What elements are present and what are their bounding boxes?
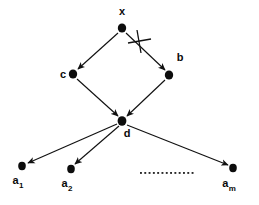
ellipsis-group [140, 172, 194, 174]
ellipsis-dot [170, 172, 172, 174]
node-dot-am[interactable] [229, 164, 237, 172]
ellipsis-dot [183, 172, 185, 174]
ellipsis-dot [166, 172, 168, 174]
edge-c-to-d [77, 79, 118, 116]
ellipsis-dot [149, 172, 151, 174]
node-dot-a1[interactable] [18, 162, 26, 170]
ellipsis-dot [153, 172, 155, 174]
ellipsis-dot [144, 172, 146, 174]
node-label-c: c [60, 68, 66, 80]
edges-group [28, 33, 228, 165]
ellipsis-dot [187, 172, 189, 174]
edge-d-to-am [127, 125, 228, 165]
nodes-group: xcbda1a2am [12, 5, 236, 193]
ellipsis-dot [192, 172, 194, 174]
node-label-b: b [177, 51, 184, 63]
ellipsis-dot [162, 172, 164, 174]
node-label-x: x [119, 5, 126, 17]
node-dot-d[interactable] [118, 116, 127, 126]
graph-diagram: xcbda1a2am [0, 0, 259, 205]
edge-d-to-a2 [75, 126, 119, 164]
strike-mark-x-to-b [128, 30, 151, 53]
node-label-a1: a1 [12, 174, 24, 190]
edge-x-to-b [126, 33, 165, 70]
node-subscript-am: m [229, 184, 236, 193]
ellipsis-dot [157, 172, 159, 174]
node-dot-c[interactable] [69, 69, 77, 78]
ellipsis-dot [140, 172, 142, 174]
ellipsis-dot [174, 172, 176, 174]
node-dot-x[interactable] [118, 23, 126, 32]
graph-canvas: xcbda1a2am [0, 0, 259, 205]
node-subscript-a1: 1 [19, 181, 24, 190]
node-dot-a2[interactable] [67, 165, 75, 173]
ellipsis-dot [179, 172, 181, 174]
edge-d-to-a1 [28, 124, 117, 163]
node-dot-b[interactable] [165, 70, 173, 79]
node-label-am: am [222, 177, 236, 193]
node-label-a2: a2 [61, 177, 73, 193]
node-subscript-a2: 2 [68, 184, 73, 193]
edge-x-to-c [78, 33, 118, 69]
node-label-d: d [124, 127, 131, 139]
edge-b-to-d [127, 80, 165, 116]
